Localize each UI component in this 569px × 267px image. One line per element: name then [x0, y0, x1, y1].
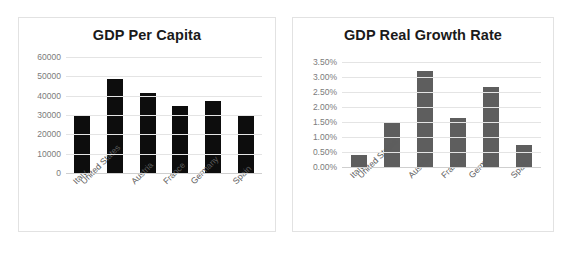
y-axis-tick-label: 3.50%: [313, 57, 337, 67]
gridline: [66, 57, 262, 58]
x-axis-line: [342, 167, 541, 168]
x-label-slot: Austria: [131, 173, 164, 223]
gridline: [66, 134, 262, 135]
gridline: [342, 92, 541, 93]
y-axis-tick-label: 1.00%: [313, 132, 337, 142]
x-axis-line: [66, 173, 262, 174]
plot-area-gdp-real-growth-rate: ItalyUnited StatesAustriaFranceGermanySp…: [342, 62, 541, 167]
gridline: [342, 62, 541, 63]
x-label-slot: United States: [375, 167, 408, 217]
gridline: [66, 96, 262, 97]
gridline: [342, 137, 541, 138]
x-label-slot: Spain: [508, 167, 541, 217]
x-label-slot: United States: [99, 173, 132, 223]
plot-area-gdp-per-capita: ItalyUnited StatesAustriaFranceGermanySp…: [66, 57, 262, 173]
gridline: [66, 115, 262, 116]
gridline: [342, 122, 541, 123]
y-axis-tick-label: 30000: [37, 110, 61, 120]
gridline: [66, 154, 262, 155]
y-axis-tick-label: 1.50%: [313, 117, 337, 127]
x-label-slot: Germany: [475, 167, 508, 217]
x-label-slot: Spain: [229, 173, 262, 223]
chart-page: GDP Per Capita ItalyUnited StatesAustria…: [0, 0, 569, 267]
y-axis-tick-label: 3.00%: [313, 72, 337, 82]
y-axis-tick-label: 0: [56, 168, 61, 178]
chart-panel-gdp-real-growth-rate: GDP Real Growth Rate ItalyUnited StatesA…: [292, 17, 554, 232]
chart-title-gdp-real-growth-rate: GDP Real Growth Rate: [293, 27, 553, 43]
x-label-slot: Austria: [408, 167, 441, 217]
y-axis-tick-label: 20000: [37, 129, 61, 139]
gridline: [342, 152, 541, 153]
chart-panel-gdp-per-capita: GDP Per Capita ItalyUnited StatesAustria…: [18, 17, 276, 232]
y-axis-tick-label: 50000: [37, 71, 61, 81]
gridline: [342, 107, 541, 108]
y-axis-tick-label: 2.00%: [313, 102, 337, 112]
x-label-slot: Germany: [197, 173, 230, 223]
y-axis-tick-label: 60000: [37, 52, 61, 62]
bar-italy[interactable]: [74, 116, 90, 173]
y-axis-tick-label: 2.50%: [313, 87, 337, 97]
gridline: [342, 77, 541, 78]
y-axis-tick-label: 10000: [37, 149, 61, 159]
y-axis-tick-label: 0.00%: [313, 162, 337, 172]
chart-title-gdp-per-capita: GDP Per Capita: [19, 27, 275, 43]
x-axis-labels-gdp-per-capita: ItalyUnited StatesAustriaFranceGermanySp…: [66, 173, 262, 223]
y-axis-tick-label: 0.50%: [313, 147, 337, 157]
y-axis-tick-label: 40000: [37, 91, 61, 101]
x-axis-labels-gdp-real-growth-rate: ItalyUnited StatesAustriaFranceGermanySp…: [342, 167, 541, 217]
gridline: [66, 76, 262, 77]
